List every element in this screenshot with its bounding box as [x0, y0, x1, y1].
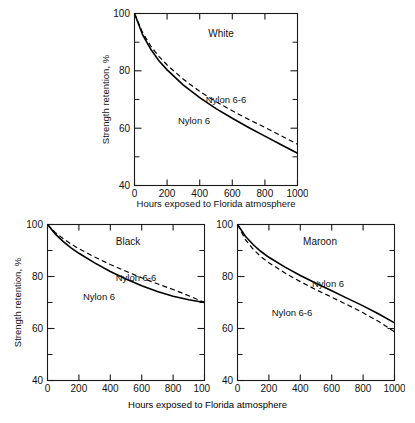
panel-title-black: Black [116, 236, 141, 247]
y-tick-label: 60 [119, 123, 131, 134]
y-tick-label: 100 [113, 8, 130, 19]
x-tick-label: 200 [71, 383, 88, 394]
x-tick-label: 800 [165, 383, 182, 394]
x-tick-label: 400 [292, 383, 309, 394]
chart-panel-black: 40 60 80 100 0 200 400 600 800 1000 Stre… [10, 215, 210, 420]
chart-svg-black: 40 60 80 100 0 200 400 600 800 1000 Stre… [10, 215, 210, 420]
series-label-nylon66: Nylon 6-6 [272, 307, 313, 318]
chart-panel-white: 40 60 80 100 0 200 400 600 800 1000 Hour… [98, 4, 308, 209]
y-tick-label: 80 [222, 271, 234, 282]
y-axis-title: Strength retention, % [12, 257, 23, 347]
y-tick-label: 80 [32, 271, 44, 282]
y-axis-ticks [238, 225, 395, 381]
x-tick-label: 1000 [286, 188, 308, 199]
y-tick-label: 100 [216, 219, 233, 230]
y-tick-label: 40 [32, 375, 44, 386]
series-label-nylon66: Nylon 6-6 [116, 272, 157, 283]
chart-svg-maroon: 40 60 80 100 0 200 400 600 800 1000 Maro… [200, 215, 405, 420]
x-tick-label: 800 [257, 188, 274, 199]
x-tick-label: 200 [159, 188, 176, 199]
x-tick-label: 600 [133, 383, 150, 394]
y-tick-label: 40 [119, 180, 131, 191]
y-tick-label: 60 [222, 323, 234, 334]
series-label-nylon6: Nylon 6 [178, 115, 210, 126]
y-tick-label: 80 [119, 65, 131, 76]
x-tick-label: 0 [235, 383, 241, 394]
x-axis-ticks [238, 225, 395, 381]
y-axis-title: Strength retention, % [100, 54, 111, 144]
x-tick-label: 800 [355, 383, 372, 394]
panel-title-white: White [208, 28, 234, 39]
series-label-nylon66: Nylon 6-6 [206, 94, 247, 105]
chart-svg-white: 40 60 80 100 0 200 400 600 800 1000 Hour… [98, 4, 308, 209]
x-tick-label: 200 [261, 383, 278, 394]
x-tick-label: 400 [191, 188, 208, 199]
x-tick-label: 600 [323, 383, 340, 394]
y-tick-label: 40 [222, 375, 234, 386]
x-tick-label: 600 [224, 188, 241, 199]
chart-panel-maroon: 40 60 80 100 0 200 400 600 800 1000 Maro… [200, 215, 405, 420]
series-label-nylon6: Nylon 6 [83, 291, 115, 302]
y-tick-label: 60 [32, 323, 44, 334]
figure-strength-retention: 40 60 80 100 0 200 400 600 800 1000 Hour… [0, 0, 415, 423]
x-tick-label: 0 [132, 188, 138, 199]
x-tick-label: 0 [45, 383, 51, 394]
x-tick-label: 1000 [383, 383, 405, 394]
series-label-nylon6: Nylon 6 [312, 278, 344, 289]
x-axis-title: Hours exposed to Florida atmosphere [137, 198, 296, 209]
panel-title-maroon: Maroon [303, 236, 337, 247]
y-tick-label: 100 [26, 219, 43, 230]
x-tick-label: 400 [102, 383, 119, 394]
plot-frame [238, 225, 395, 381]
x-axis-title-bottom: Hours exposed to Florida atmosphere [0, 399, 415, 410]
